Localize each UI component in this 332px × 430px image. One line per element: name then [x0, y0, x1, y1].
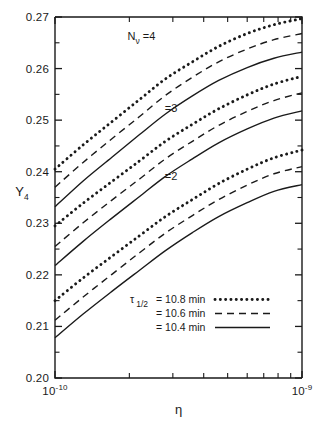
legend-entry-label: = 10.6 min: [156, 307, 205, 319]
y-axis-tick-label: 0.22: [26, 269, 49, 281]
x-axis-tick-label: 10-9: [292, 383, 313, 397]
x-axis-title: η: [175, 402, 182, 417]
figure-container: 0.200.210.220.230.240.250.260.2710-1010-…: [0, 0, 332, 430]
y-axis-tick-label: 0.21: [26, 320, 49, 332]
legend-symbol-tau: τ1/2: [130, 293, 148, 309]
y-axis-tick-label: 0.20: [26, 372, 49, 384]
curve-group-label-nv4: Nν =4: [128, 30, 156, 46]
y-axis-tick-label: 0.25: [26, 114, 49, 126]
x-axis-tick-exponent: -9: [305, 383, 313, 392]
data-curve-dashed: [55, 34, 302, 188]
data-curve-solid: [55, 52, 302, 207]
x-axis-tick-exponent: -10: [56, 383, 69, 392]
data-curve-dotted: [55, 19, 302, 170]
legend-entry-label: = 10.4 min: [156, 321, 205, 333]
curve-group-label-nv3: =3: [165, 102, 178, 114]
neutrino-helium-abundance-chart: 0.200.210.220.230.240.250.260.2710-1010-…: [0, 0, 332, 430]
x-axis-tick-label: 10-10: [42, 383, 68, 397]
y-axis-tick-label: 0.27: [26, 11, 49, 23]
curve-group-label-nv2: =2: [165, 170, 178, 182]
y-axis-title: Y4: [15, 184, 29, 202]
y-axis-tick-label: 0.23: [26, 217, 49, 229]
legend-entry-label: = 10.8 min: [156, 293, 205, 305]
data-curve-dashed: [55, 93, 302, 247]
y-axis-tick-label: 0.24: [26, 166, 50, 178]
data-curve-dotted: [55, 76, 302, 226]
y-axis-tick-label: 0.26: [26, 63, 49, 75]
